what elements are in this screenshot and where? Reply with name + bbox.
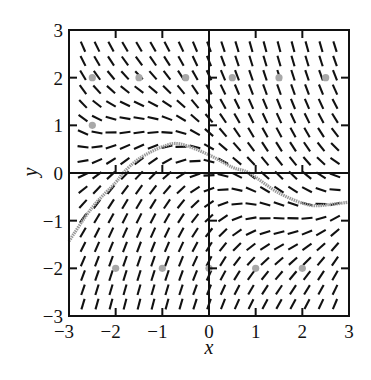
slope-segment	[95, 299, 98, 310]
slope-segment	[305, 56, 308, 67]
slope-segment	[122, 57, 128, 66]
marked-point	[299, 265, 306, 272]
slope-segment	[288, 187, 297, 193]
slope-segment	[109, 256, 113, 266]
slope-segment	[288, 244, 297, 250]
slope-segment	[190, 130, 200, 135]
slope-segment	[220, 243, 227, 252]
slope-segment	[106, 145, 116, 148]
slope-segment	[81, 42, 85, 52]
slope-segment	[233, 243, 241, 251]
slope-segment	[148, 101, 158, 106]
slope-segment	[234, 271, 240, 280]
y-tick-label: −1	[43, 211, 63, 232]
slope-segment	[291, 113, 296, 123]
y-tick-labels: −3−2−10123	[43, 20, 63, 327]
slope-segment	[260, 244, 269, 250]
slope-segment	[192, 242, 197, 252]
slope-segment	[332, 271, 337, 281]
slope-segment	[305, 84, 309, 94]
slope-segment	[333, 41, 336, 51]
slope-segment	[138, 299, 141, 310]
slope-segment	[109, 228, 114, 238]
slope-segment	[137, 228, 141, 238]
slope-segment	[291, 70, 294, 80]
slope-segment	[249, 99, 253, 109]
slope-segment	[95, 228, 100, 238]
slope-segment	[92, 146, 103, 147]
slope-segment	[248, 128, 254, 137]
slope-segment	[220, 99, 225, 109]
slope-segment	[333, 70, 337, 80]
slope-segment	[165, 256, 169, 266]
slope-segment	[247, 243, 256, 250]
slope-segment	[263, 56, 266, 67]
slope-segment	[233, 158, 241, 165]
slope-segment	[109, 270, 112, 280]
slope-segment	[79, 186, 88, 193]
slope-segment	[135, 86, 144, 93]
x-axis-label: x	[204, 336, 214, 358]
slope-segment	[318, 271, 324, 280]
slope-segment	[303, 257, 311, 265]
slope-segment	[191, 200, 199, 208]
slope-segment	[305, 113, 310, 123]
slope-segment	[176, 115, 185, 121]
slope-segment	[94, 214, 100, 223]
slope-segment	[122, 199, 128, 208]
slope-segment	[319, 99, 324, 109]
slope-segment	[122, 185, 129, 194]
slope-segment	[95, 256, 99, 266]
slope-segment	[292, 41, 295, 52]
slope-segment	[150, 213, 155, 223]
slope-segment	[235, 99, 240, 109]
slope-segment	[137, 213, 142, 223]
slope-segment	[165, 228, 170, 238]
slope-segment	[332, 114, 338, 123]
marked-point	[112, 265, 119, 272]
slope-segment	[276, 285, 282, 294]
slope-segment	[305, 70, 309, 80]
marked-point	[135, 74, 142, 81]
marked-point	[89, 74, 96, 81]
slope-segment	[134, 144, 144, 149]
slope-segment	[331, 229, 339, 236]
slope-segment	[192, 85, 198, 94]
slope-segment	[178, 228, 183, 238]
slope-segment	[193, 299, 196, 309]
slope-segment	[276, 142, 282, 151]
slope-segment	[331, 243, 338, 251]
slope-segment	[166, 299, 169, 310]
slope-segment	[150, 199, 156, 208]
slope-segment	[306, 41, 309, 52]
slope-segment	[247, 257, 254, 265]
slope-segment	[277, 99, 281, 109]
slope-segment	[178, 200, 185, 209]
slope-segment	[304, 285, 310, 294]
slope-segment	[81, 285, 85, 295]
slope-segment	[277, 84, 281, 94]
slope-segment	[179, 242, 184, 252]
slope-segment	[176, 131, 187, 134]
slope-segment	[305, 99, 309, 109]
slope-segment	[95, 242, 99, 252]
slope-segment	[151, 270, 154, 280]
slope-segment	[121, 71, 128, 79]
slope-segment	[262, 299, 267, 309]
slope-segment	[108, 199, 114, 208]
slope-segment	[233, 143, 240, 151]
slope-segment	[247, 157, 255, 165]
slope-segment	[330, 189, 341, 190]
slope-segment	[95, 270, 99, 280]
slope-segment	[232, 204, 243, 205]
slope-segment	[333, 299, 337, 309]
slope-segment	[249, 84, 253, 94]
slope-segment	[316, 230, 325, 236]
slope-segment	[318, 142, 325, 151]
marked-point	[252, 265, 259, 272]
slope-segment	[248, 285, 254, 294]
slope-segment	[123, 228, 127, 238]
slope-segment	[151, 256, 155, 266]
marked-point	[89, 122, 96, 129]
slope-segment	[107, 86, 115, 93]
